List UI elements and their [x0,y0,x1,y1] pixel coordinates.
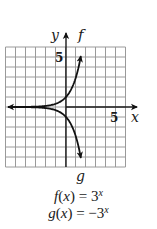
y-axis-label: y [50,27,60,43]
eq-g-rhs: = −3 [72,205,104,221]
eq-g-exp: x [104,204,108,215]
curve-g [14,107,81,158]
equation-f: f(x) = 3x [0,188,157,204]
curve-f [14,56,81,107]
eq-g-var: x [61,205,68,221]
y-tick-5: 5 [55,51,63,65]
eq-g-fn: g [48,205,56,221]
curve-f-label: f [77,26,86,44]
equation-g: g(x) = −3x [0,205,157,221]
eq-f-equals: = [75,188,91,204]
eq-f-fn: f [54,188,58,204]
x-tick-5: 5 [110,111,118,125]
eq-f-var: x [63,188,70,204]
eq-f-exp: x [98,187,102,198]
x-axis-label: x [131,109,139,125]
curve-g-label: g [76,168,85,184]
